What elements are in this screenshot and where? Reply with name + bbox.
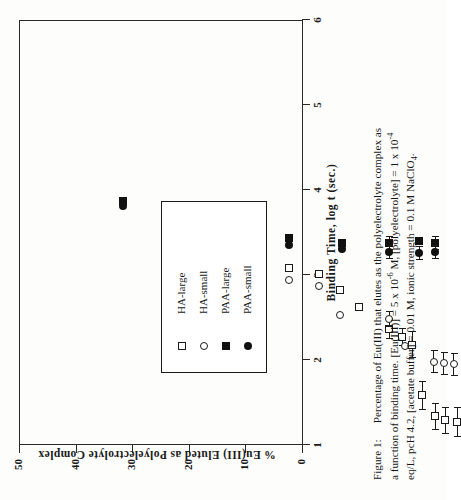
x-axis-tick [302,19,310,20]
legend-item: HA-large [172,202,192,372]
legend-item: PAA-small [238,202,258,372]
legend-item: HA-small [194,202,214,372]
caption-line-2a: a function of binding time. [Eu(III)] = … [387,279,399,480]
y-axis-tick-label: 30 [125,459,137,487]
legend-marker-filled-circle [244,342,252,350]
x-axis-tick [302,274,310,275]
legend-label: PAA-small [241,266,253,315]
legend-marker-filled-square [222,342,230,350]
legend-marker-open-square [178,342,186,350]
x-axis-tick [302,189,310,190]
x-axis-tick-label: 2 [311,345,323,375]
x-axis-tick-label: 4 [311,175,323,205]
legend-label: HA-small [197,271,209,314]
y-axis-tick-label: 0 [295,459,307,487]
caption-exp-1: -6 [386,272,395,279]
legend-label: PAA-large [219,268,231,314]
x-axis-title: Binding Time, log t (sec.) [325,20,337,445]
figure-label: Figure 1: [371,439,383,480]
x-axis-tick [302,104,310,105]
caption-block: Figure 1:Percentage of Eu(III) that elut… [369,20,455,480]
data-point [285,241,293,249]
data-point [314,270,322,278]
data-point [354,303,362,311]
legend-marker-open-circle [200,342,208,350]
legend-item: PAA-large [216,202,236,372]
chart-area: 12345601020304050 Binding Time, log t (s… [11,15,341,485]
data-point [337,245,345,253]
caption-exp-2: -4 [386,133,395,140]
caption-line-3a: eq/L, pcH 4.2, [acetate buffer] = 0.01 M… [404,160,416,480]
data-point [285,264,293,272]
data-point [119,202,127,210]
caption-line-2b: M, [polyelectrolyte] = 1 x 10 [387,140,399,273]
y-axis-tick-label: 20 [181,459,193,487]
caption-line-1: Percentage of Eu(III) that elutes as the… [371,128,383,423]
caption-line-3b: . [404,153,416,156]
x-axis-tick [302,359,310,360]
x-axis-tick-label: 6 [311,5,323,35]
y-axis-title: % Eu(III) Eluted as Polyelectrolyte Comp… [0,449,322,461]
caption-sub-1: 4 [410,156,419,160]
data-point [314,282,322,290]
y-axis-tick-label: 10 [238,459,250,487]
y-axis-tick-label: 40 [68,459,80,487]
data-point [285,276,293,284]
x-axis-line [302,20,303,445]
legend-box: HA-largeHA-smallPAA-largePAA-small [161,201,267,373]
x-axis-tick-label: 5 [311,90,323,120]
y-axis-tick-label: 50 [12,459,24,487]
legend-label: HA-large [175,273,187,314]
